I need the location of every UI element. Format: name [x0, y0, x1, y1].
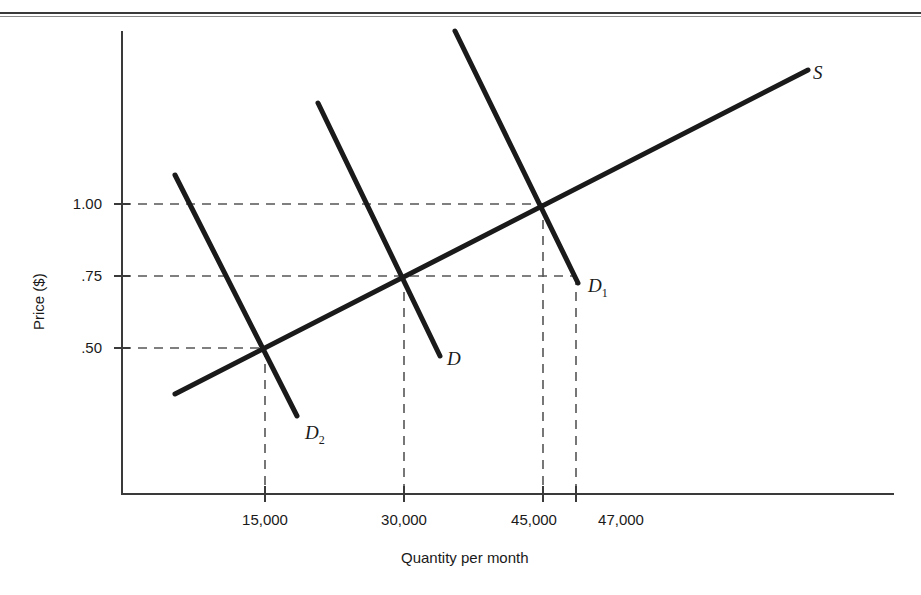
axis-lines — [122, 32, 893, 494]
x-axis-title: Quantity per month — [401, 549, 529, 566]
x-tick-label-15000: 15,000 — [210, 511, 320, 528]
curve-label-supply-text: S — [813, 62, 823, 83]
y-tick-label-0-50: .50 — [42, 339, 102, 356]
curve-label-demand-1-text: D — [588, 275, 602, 296]
axis-ticks — [114, 204, 576, 502]
y-axis-title: Price ($) — [30, 273, 47, 330]
curve-label-demand-1: D1 — [588, 275, 608, 301]
curve-label-supply: S — [813, 62, 823, 84]
curve-label-demand-1-sub: 1 — [602, 286, 608, 300]
x-tick-label-30000: 30,000 — [349, 511, 459, 528]
supply-demand-chart — [0, 0, 921, 595]
demand-curve-D2 — [175, 175, 297, 416]
curves — [175, 31, 808, 416]
y-tick-label-1-00: 1.00 — [42, 195, 102, 212]
guide-lines — [122, 204, 576, 494]
curve-label-demand-2-sub: 2 — [319, 433, 325, 447]
x-tick-label-47000: 47,000 — [566, 511, 676, 528]
figure-root: 1.00 .75 .50 Price ($) 15,000 30,000 45,… — [0, 0, 921, 595]
curve-label-demand: D — [447, 348, 461, 370]
supply-curve-S — [175, 70, 808, 394]
y-tick-label-0-75: .75 — [42, 267, 102, 284]
curve-label-demand-text: D — [447, 348, 461, 369]
demand-curve-D1 — [455, 31, 578, 283]
curve-label-demand-2-text: D — [305, 422, 319, 443]
demand-curve-D — [318, 103, 440, 356]
curve-label-demand-2: D2 — [305, 422, 325, 448]
